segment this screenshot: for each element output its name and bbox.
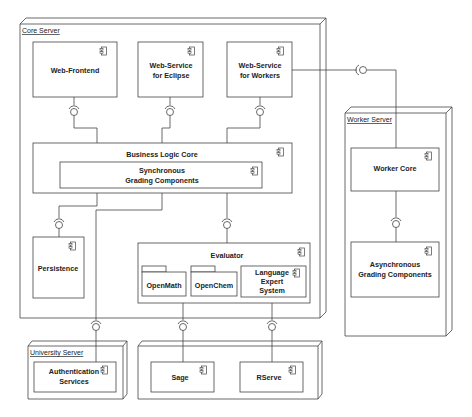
node-label-core-server: Core Server: [22, 27, 60, 34]
component-ws-eclipse: Web-Service for Eclipse: [138, 42, 203, 97]
interface-auth-icon: [91, 321, 101, 331]
component-business-logic-core: Business Logic Core Synchronous Grading …: [33, 143, 292, 193]
component-sync-grading: Synchronous Grading Components: [60, 162, 262, 188]
svg-text:Worker Core: Worker Core: [373, 164, 416, 173]
svg-text:for Eclipse: for Eclipse: [153, 71, 190, 80]
svg-text:Persistence: Persistence: [38, 264, 78, 273]
interface-sage-icon: [178, 321, 188, 331]
svg-text:Evaluator: Evaluator: [211, 251, 244, 260]
component-language-expert-system: Language Expert System: [241, 266, 306, 297]
svg-text:RServe: RServe: [257, 373, 282, 382]
component-authentication-services: Authentication Services: [34, 362, 116, 392]
svg-text:OpenMath: OpenMath: [146, 281, 181, 290]
interface-rserve-icon: [267, 321, 277, 331]
svg-text:Asynchronous: Asynchronous: [370, 260, 420, 269]
svg-text:Sage: Sage: [171, 373, 188, 382]
component-sage: Sage: [151, 362, 214, 392]
component-ws-workers: Web-Service for Workers: [227, 42, 292, 97]
component-persistence: Persistence: [33, 237, 84, 298]
svg-text:Grading Components: Grading Components: [125, 176, 198, 185]
svg-text:Language: Language: [255, 268, 289, 277]
component-web-frontend: Web-Frontend: [33, 42, 117, 97]
svg-text:Web-Frontend: Web-Frontend: [51, 66, 100, 75]
svg-text:Authentication: Authentication: [49, 367, 99, 376]
component-async-grading: Asynchronous Grading Components: [351, 242, 439, 297]
node-label-university-server: University Server: [30, 349, 84, 357]
svg-text:Business Logic Core: Business Logic Core: [126, 150, 198, 159]
svg-text:OpenChem: OpenChem: [195, 281, 233, 290]
svg-text:for Workers: for Workers: [240, 71, 280, 80]
svg-text:Grading Components: Grading Components: [358, 270, 431, 279]
svg-text:System: System: [259, 286, 285, 295]
svg-text:Web-Service: Web-Service: [238, 61, 281, 70]
deployment-diagram: Core Server Worker Server University Ser…: [0, 0, 472, 417]
svg-text:Services: Services: [59, 377, 89, 386]
node-label-worker-server: Worker Server: [347, 116, 393, 123]
component-worker-core: Worker Core: [351, 148, 439, 191]
component-evaluator: Evaluator OpenMath OpenChem Language Exp…: [138, 243, 310, 303]
svg-text:Synchronous: Synchronous: [139, 166, 185, 175]
interface-worker-link-icon: [356, 65, 367, 75]
component-rserve: RServe: [240, 362, 303, 392]
svg-text:Web-Service: Web-Service: [149, 61, 192, 70]
svg-text:Expert: Expert: [261, 277, 284, 286]
